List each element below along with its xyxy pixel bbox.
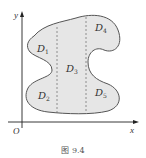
figure-caption: 图 9.4 [0, 144, 146, 155]
region-label-D5: D5 [95, 88, 107, 99]
region-label-D1: D1 [37, 44, 49, 55]
region-subscript: 5 [103, 92, 107, 99]
region-name: D [37, 43, 45, 54]
region-label-D2: D2 [38, 91, 50, 102]
x-axis-label: x [130, 126, 134, 135]
x-axis-arrow-icon [133, 120, 139, 124]
region-subscript: 1 [45, 48, 49, 55]
region-partition-figure: y O x D1 D2 D3 D4 D5 图 9.4 [0, 0, 146, 158]
region-label-D3: D3 [66, 64, 78, 75]
region-name: D [95, 87, 103, 98]
region-name: D [66, 63, 74, 74]
y-axis-arrow-icon [20, 11, 24, 17]
region-subscript: 4 [103, 27, 107, 34]
diagram-canvas [0, 0, 146, 158]
region-label-D4: D4 [95, 23, 107, 34]
region-subscript: 2 [46, 95, 50, 102]
y-axis-label: y [14, 11, 18, 20]
region-name: D [95, 22, 103, 33]
region-subscript: 3 [74, 68, 78, 75]
origin-label: O [13, 127, 20, 136]
region-name: D [38, 90, 46, 101]
